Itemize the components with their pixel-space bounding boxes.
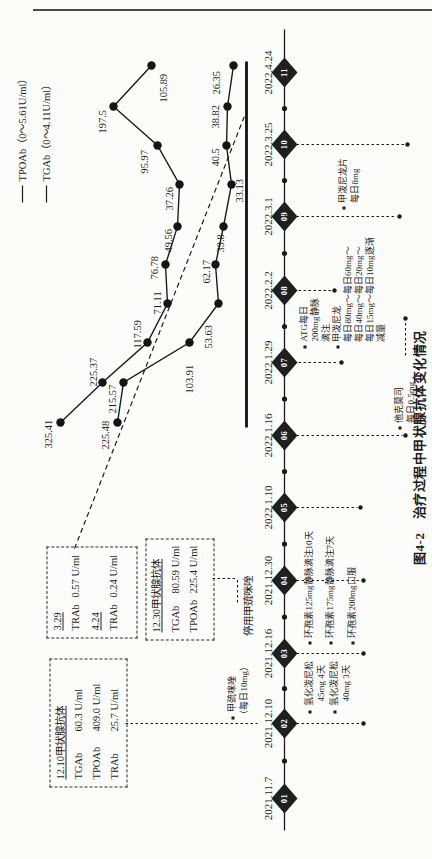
box-329-date: 3.29: [51, 612, 63, 630]
event-date-11: 2022.4.24: [261, 32, 273, 112]
ann-hydroprednisone-line2: 氢化泼尼松: [329, 660, 339, 705]
leader-end-dots: [332, 142, 409, 725]
point-label-tpoab-2: 117.59: [131, 320, 143, 349]
box-424-label: TRAb: [107, 604, 119, 630]
event-date-05: 2022.1.10: [261, 467, 273, 547]
bullet-cyclosporine-3: [351, 641, 354, 644]
point-label-tpoab-5: 49.56: [162, 228, 174, 252]
event-date-02: 2021.12.10: [261, 683, 273, 763]
event-date-09: 2022.3.1: [261, 176, 273, 256]
ann-methylprednisolone-line0: 甲泼尼龙: [332, 305, 342, 341]
ann-methimazole-line1: （每日10mg）: [239, 661, 249, 718]
box-424-date: 4.24: [89, 612, 101, 630]
event-num-01: 01: [279, 786, 288, 810]
book-page: TPOAb（0～5.61U/ml） TGAb（0～4.11U/ml） 325.4…: [0, 0, 432, 859]
box-1230-title: 12.30甲状腺抗体: [150, 558, 162, 632]
box-1230-row0-label: TGAb: [169, 605, 181, 632]
ann-cyclosporine-line0: 环孢素125mg静脉滴注10天: [304, 531, 314, 637]
event-date-08: 2022.2.2: [261, 250, 273, 330]
ann-atg-line0: ATG每日: [299, 306, 309, 342]
event-num-07: 07: [279, 350, 288, 374]
event-date-03: 2021.12.16: [261, 613, 273, 693]
box-1230-row0-value: 80.59 U/ml: [169, 545, 181, 593]
tpoab-series-line: [60, 65, 179, 422]
point-label-tgab-1: 215.57: [106, 384, 118, 413]
ann-methylprednisolone-tablets-line1: 每日8mg: [350, 168, 360, 202]
box-1230-row1-value: 225.4 U/ml: [187, 545, 199, 593]
point-label-tpoab-4: 76.78: [148, 255, 160, 279]
event-date-04: 2021.12.30: [261, 540, 273, 620]
point-label-tpoab-0: 325.41: [42, 419, 54, 448]
box-329-value: 0.57 U/ml: [69, 554, 81, 597]
box-1210-row2-label: TRAb: [108, 753, 120, 779]
rotated-figure-container: TPOAb（0～5.61U/ml） TGAb（0～4.11U/ml） 325.4…: [0, 0, 432, 859]
event-date-06: 2022.1.16: [261, 395, 273, 475]
ann-hydroprednisone-line3: 40mg 3天: [341, 665, 351, 701]
ann-tacrolimus-line0: 他克莫司: [394, 386, 404, 422]
event-date-07: 2022.1.29: [261, 322, 273, 402]
point-label-tgab-4: 62.17: [200, 259, 212, 283]
event-num-03: 03: [279, 641, 288, 665]
bullet-tacrolimus: [398, 426, 401, 429]
ann-methylprednisolone-line2: 每日40mg～每日20mg～: [354, 246, 364, 341]
trab-dashed-line: [74, 113, 245, 548]
box-1230-row1-label: TPOAb: [187, 599, 199, 632]
ann-atg-line1: 200mg静脉: [310, 298, 320, 341]
event-date-10: 2022.3.25: [261, 104, 273, 184]
ann-methylprednisolone-line1: 每日80mg～每日60mg～: [343, 246, 353, 341]
bullet-methimazole: [231, 716, 234, 719]
bullet-methylprednisolone: [336, 345, 339, 348]
point-label-tpoab-3: 71.11: [151, 291, 163, 314]
ann-hydroprednisone-line1: 45mg 4天: [316, 665, 326, 701]
event-num-06: 06: [279, 423, 288, 447]
event-num-09: 09: [279, 204, 288, 228]
point-label-tpoab-6: 37.26: [163, 186, 175, 210]
point-label-tgab-5: 39.8: [214, 234, 226, 252]
point-label-tgab-3: 53.63: [202, 324, 214, 348]
event-num-11: 11: [279, 60, 288, 84]
box-424-value: 0.24 U/ml: [107, 554, 119, 597]
point-label-tpoab-9: 105.89: [157, 73, 169, 102]
figure-canvas: TPOAb（0～5.61U/ml） TGAb（0～4.11U/ml） 325.4…: [0, 0, 432, 859]
point-label-tgab-8: 38.82: [209, 104, 221, 128]
point-label-tgab-0: 225.48: [99, 420, 111, 449]
ann-methylprednisolone-line3: 每日15mg～每日10mg逐渐: [365, 237, 375, 341]
point-label-tgab-7: 40.5: [209, 148, 221, 166]
ann-methylprednisolone-line4: 减量: [376, 323, 386, 341]
bullet-hydroprednisone-2: [333, 710, 336, 713]
ann-atg-line2: 滴注: [321, 323, 331, 341]
box-1210-title: 12.10甲状腺抗体: [54, 705, 66, 779]
bullet-atg: [303, 345, 306, 348]
bullet-hydroprednisone-1: [308, 710, 311, 713]
box-329-label: TRAb: [69, 604, 81, 630]
event-num-05: 05: [279, 495, 288, 519]
point-label-tgab-6: 33.13: [233, 178, 245, 202]
figure-caption: 图4-2 治疗过程中甲状腺抗体变化情况: [412, 315, 426, 579]
event-num-10: 10: [279, 132, 288, 156]
ann-cyclosporine-line2: 环孢素200mg口服: [347, 567, 357, 637]
event-num-04: 04: [279, 568, 288, 592]
legend-label-tpoab: TPOAb（0～5.61U/ml）: [16, 73, 28, 181]
bullet-cyclosporine-1: [308, 641, 311, 644]
ann-stop-methimazole: 停用甲巯咪唑: [242, 575, 254, 635]
point-label-tpoab-1: 225.37: [87, 357, 99, 386]
bullet-cyclosporine-2: [329, 641, 332, 644]
point-label-tpoab-7: 95.97: [138, 149, 150, 173]
event-date-01: 2021.11.7: [261, 758, 273, 838]
point-label-tgab-9: 26.35: [210, 70, 222, 94]
legend-label-tgab: TGAb（0～4.11U/ml）: [40, 79, 52, 181]
box-1210-row0-label: TGAb: [72, 752, 84, 779]
box-1210-row2-value: 25.7 U/ml: [108, 688, 120, 731]
box-1210-row1-value: 409.0 U/ml: [90, 683, 102, 731]
ann-methimazole-line0: 甲巯咪唑: [227, 675, 237, 711]
ann-cyclosporine-line1: 环孢素175mg静脉滴注7天: [325, 535, 335, 637]
ann-hydroprednisone-line0: 氢化泼尼松: [304, 660, 314, 705]
box-1210-row0-value: 60.3 U/ml: [72, 688, 84, 731]
point-label-tpoab-8: 197.5: [96, 109, 108, 133]
box-1210-row1-label: TPOAb: [90, 746, 102, 779]
ann-methylprednisolone-tablets-line0: 甲泼尼龙片: [338, 157, 348, 202]
point-label-tgab-2: 103.91: [183, 364, 195, 393]
bullet-methylprednisolone-tablets: [342, 206, 345, 209]
event-num-08: 08: [279, 278, 288, 302]
event-num-02: 02: [279, 711, 288, 735]
